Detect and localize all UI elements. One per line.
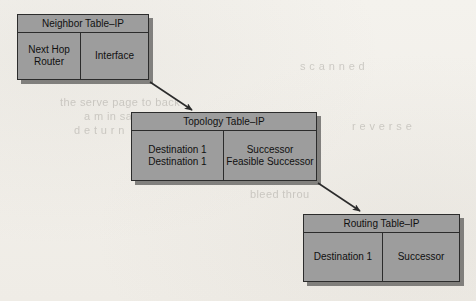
cell-line: Successor xyxy=(247,144,294,156)
diagram-canvas: the serve page to back a m in sa r t d e… xyxy=(0,0,476,301)
routing-table-box: Routing Table–IP Destination 1 Successor xyxy=(303,214,460,282)
neighbor-cell-interface: Interface xyxy=(80,33,148,79)
neighbor-cell-next-hop-router: Next Hop Router xyxy=(18,33,80,79)
ghost-artifact: the serve page to back xyxy=(60,96,180,108)
topology-table-title: Topology Table–IP xyxy=(132,113,316,131)
cell-line: Destination 1 xyxy=(314,251,372,263)
routing-table-body: Destination 1 Successor xyxy=(304,233,459,281)
ghost-artifact: d e t u r n xyxy=(74,124,125,136)
cell-line: Interface xyxy=(95,50,134,62)
topology-table-body: Destination 1 Destination 1 Successor Fe… xyxy=(132,131,316,180)
routing-cell-successor: Successor xyxy=(382,233,459,281)
topology-cell-destinations: Destination 1 Destination 1 xyxy=(132,131,223,180)
cell-line: Feasible Successor xyxy=(226,156,313,168)
ghost-artifact: bleed throu xyxy=(250,188,309,200)
routing-table-title: Routing Table–IP xyxy=(304,215,459,233)
cell-line: Router xyxy=(34,56,64,68)
cell-line: Destination 1 xyxy=(148,156,206,168)
topology-table-box: Topology Table–IP Destination 1 Destinat… xyxy=(131,112,317,181)
neighbor-table-title: Neighbor Table–IP xyxy=(18,15,148,33)
routing-cell-destination: Destination 1 xyxy=(304,233,382,281)
neighbor-table-box: Neighbor Table–IP Next Hop Router Interf… xyxy=(17,14,149,80)
arrow-topology-to-routing xyxy=(318,183,360,211)
ghost-artifact: r e v e r s e xyxy=(352,120,412,132)
topology-cell-successors: Successor Feasible Successor xyxy=(223,131,316,180)
cell-line: Next Hop xyxy=(28,44,70,56)
neighbor-table-body: Next Hop Router Interface xyxy=(18,33,148,79)
ghost-artifact: s c a n n e d xyxy=(300,60,365,72)
cell-line: Successor xyxy=(398,251,445,263)
cell-line: Destination 1 xyxy=(148,144,206,156)
arrow-neighbor-to-topology xyxy=(150,82,192,110)
